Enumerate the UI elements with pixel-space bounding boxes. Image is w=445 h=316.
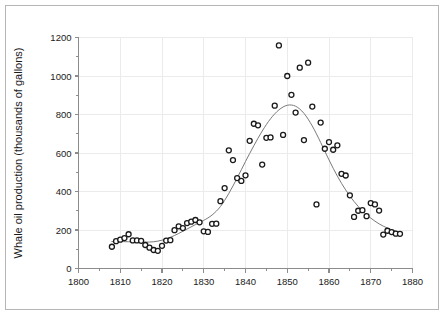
data-point-marker: [276, 43, 281, 48]
data-point-marker: [352, 214, 357, 219]
data-point-marker: [247, 138, 252, 143]
data-point-marker: [281, 132, 286, 137]
data-point-marker: [268, 135, 273, 140]
data-point-marker: [327, 140, 332, 145]
data-point-marker: [139, 238, 144, 243]
data-point-marker: [260, 162, 265, 167]
y-tick-label: 1200: [50, 32, 71, 43]
y-tick-label: 200: [56, 225, 72, 236]
data-point-marker: [297, 65, 302, 70]
data-point-marker: [197, 220, 202, 225]
data-point-marker: [377, 208, 382, 213]
data-point-marker: [272, 103, 277, 108]
data-point-marker: [109, 244, 114, 249]
data-point-marker: [230, 158, 235, 163]
data-point-marker: [301, 138, 306, 143]
y-axis-title-text: Whale oil production (thousands of gallo…: [12, 48, 24, 259]
data-point-marker: [239, 178, 244, 183]
x-tick-label: 1810: [110, 276, 131, 287]
data-point-marker: [306, 60, 311, 65]
data-point-marker: [285, 74, 290, 79]
x-tick-label: 1800: [68, 276, 89, 287]
x-tick-label: 1830: [193, 276, 214, 287]
data-point-marker: [122, 236, 127, 241]
x-tick-label: 1840: [235, 276, 256, 287]
y-tick-label: 0: [66, 263, 71, 274]
data-point-marker: [343, 173, 348, 178]
x-tick-label: 1820: [151, 276, 172, 287]
x-tick-label: 1880: [402, 276, 423, 287]
y-axis-tick-labels: 020040060080010001200: [50, 32, 71, 274]
y-axis-title: Whale oil production (thousands of gallo…: [12, 48, 24, 259]
data-point-marker: [381, 232, 386, 237]
data-point-marker: [347, 193, 352, 198]
data-point-marker: [314, 202, 319, 207]
data-point-marker: [397, 231, 402, 236]
data-point-marker: [256, 123, 261, 128]
data-points: [109, 43, 402, 253]
data-point-marker: [126, 232, 131, 237]
data-point-marker: [205, 229, 210, 234]
data-point-marker: [289, 92, 294, 97]
data-point-marker: [155, 248, 160, 253]
data-point-marker: [226, 148, 231, 153]
data-point-marker: [364, 214, 369, 219]
data-point-marker: [168, 238, 173, 243]
x-tick-label: 1850: [277, 276, 298, 287]
y-tick-label: 600: [56, 148, 72, 159]
data-point-marker: [160, 243, 165, 248]
data-point-marker: [172, 228, 177, 233]
y-tick-label: 400: [56, 186, 72, 197]
data-point-marker: [243, 173, 248, 178]
data-point-marker: [180, 226, 185, 231]
data-point-marker: [360, 208, 365, 213]
x-axis-tick-labels: 180018101820183018401850186018701880: [68, 276, 423, 287]
data-point-marker: [335, 143, 340, 148]
data-point-marker: [322, 146, 327, 151]
data-point-marker: [331, 147, 336, 152]
data-point-marker: [214, 221, 219, 226]
chart-figure: 180018101820183018401850186018701880 020…: [0, 0, 445, 316]
x-tick-label: 1870: [360, 276, 381, 287]
y-tick-label: 800: [56, 109, 72, 120]
data-point-marker: [222, 186, 227, 191]
x-tick-label: 1860: [318, 276, 339, 287]
data-point-marker: [310, 104, 315, 109]
y-tick-label: 1000: [50, 71, 71, 82]
data-point-marker: [218, 199, 223, 204]
data-point-marker: [293, 110, 298, 115]
data-point-marker: [318, 120, 323, 125]
data-point-marker: [372, 202, 377, 207]
whale-oil-production-scatter-chart: 180018101820183018401850186018701880 020…: [0, 0, 445, 316]
